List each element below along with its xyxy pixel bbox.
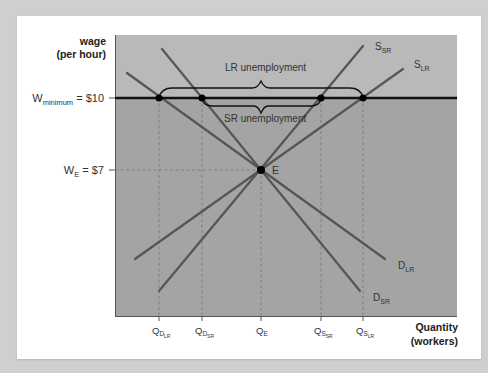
labor-market-diagram: E LR unemployment SR unemployment wage (…: [0, 0, 488, 373]
x-axis-label-line2: (workers): [411, 335, 458, 347]
sr-unemployment-label: SR unemployment: [224, 113, 306, 124]
equilibrium-point: [257, 166, 265, 174]
x-axis-label-line1: Quantity: [415, 321, 458, 333]
q-d-lr-label: QDLR: [152, 325, 171, 339]
y-axis-label-line2: (per hour): [56, 48, 106, 60]
q-d-sr-label: QDSR: [195, 325, 214, 339]
q-s-sr-label: QSSR: [314, 325, 333, 339]
q-e-label: QE: [256, 325, 268, 337]
q-s-lr-label: QSLR: [356, 325, 375, 339]
equilibrium-label: E: [272, 164, 279, 176]
min-wage-label: Wminimum = $10: [32, 92, 104, 107]
y-axis-label-line1: wage: [79, 35, 106, 47]
equilibrium-wage-label: WE = $7: [64, 164, 104, 179]
lr-unemployment-label: LR unemployment: [225, 62, 306, 73]
